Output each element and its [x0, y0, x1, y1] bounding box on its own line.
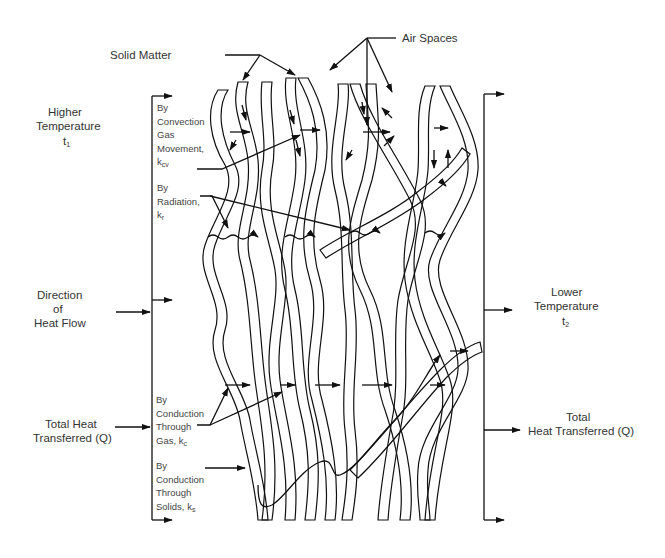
- fibers: [203, 78, 482, 520]
- mechanism-gas-conduction-label: By Conduction Through Gas, kc: [156, 393, 204, 450]
- mechanism-solid-conduction-label: By Conduction Through Solids, ks: [156, 459, 204, 516]
- solid-matter-label: Solid Matter: [110, 48, 171, 62]
- t2-label: t2: [562, 314, 569, 332]
- convection-arrows: [230, 102, 448, 186]
- radiation-wave: [208, 231, 445, 239]
- mechanism-radiation-label: By Radiation, kr: [157, 181, 200, 225]
- fibrous-insulation-diagram: [0, 0, 665, 558]
- t1-label: t1: [63, 134, 70, 152]
- air-spaces-label: Air Spaces: [402, 31, 458, 45]
- right-bracket: [484, 94, 520, 520]
- mechanism-convection-label: By Convection Gas Movement, kcv: [157, 101, 205, 172]
